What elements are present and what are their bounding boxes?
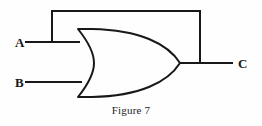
figure-caption: Figure 7 — [0, 104, 262, 116]
or-gate-symbol — [78, 29, 180, 97]
figure-container: A B C Figure 7 — [0, 0, 262, 126]
input-a-label: A — [15, 35, 25, 50]
input-b-label: B — [15, 75, 24, 90]
output-c-label: C — [238, 56, 247, 71]
feedback-wire — [52, 11, 200, 63]
